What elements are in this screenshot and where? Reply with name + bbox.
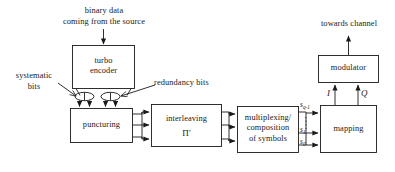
arrow-interleaving-to-multiplexing-2 <box>222 125 236 127</box>
turbo-encoder-block-diagram: turbo encoder puncturing interleaving Π'… <box>0 0 395 172</box>
annotation-systematic-bits: systematic bits <box>6 71 62 92</box>
multiplexing-line1: multiplexing/ <box>237 113 299 123</box>
block-label-turbo-encoder: turbo encoder <box>72 56 135 77</box>
s-bot-subscript: 0 <box>303 141 306 147</box>
turbo-encoder-line2: encoder <box>72 66 135 76</box>
turbo-encoder-line1: turbo <box>72 56 135 66</box>
modulator-line1: modulator <box>318 63 379 73</box>
signal-label-q-branch: Q <box>361 88 368 98</box>
interleaving-line1: interleaving <box>151 114 222 124</box>
s-mid-subscript: 1 <box>303 129 306 135</box>
arrow-puncturing-to-interleaving-3 <box>133 137 150 139</box>
signal-label-i-branch: I <box>327 88 330 98</box>
lead-encoder-right <box>127 89 131 96</box>
mapping-line1: mapping <box>320 124 377 134</box>
source-input-line1: binary data <box>38 6 170 17</box>
block-label-mapping: mapping <box>320 124 377 134</box>
block-label-modulator: modulator <box>318 63 379 73</box>
block-label-interleaving: interleaving Π' <box>151 114 222 139</box>
systematic-bits-line1: systematic <box>6 71 62 82</box>
annotation-source-input: binary data coming from the source <box>38 6 170 27</box>
multiplexing-line3: of symbols <box>237 134 299 144</box>
annotation-towards-channel: towards channel <box>305 19 393 30</box>
annotation-redundancy-bits: redundancy bits <box>154 78 222 89</box>
multiplexing-line2: composition <box>237 123 299 133</box>
systematic-bits-line2: bits <box>6 82 62 93</box>
arrow-interleaving-to-multiplexing-3 <box>222 139 236 141</box>
arrow-interleaving-to-multiplexing-1 <box>222 112 236 114</box>
source-input-line2: coming from the source <box>38 17 170 28</box>
signal-label-s-1: s1 <box>300 126 305 137</box>
signal-label-s-q-minus-1: sq-1 <box>300 101 310 112</box>
leader-redundancy-bits <box>121 85 155 96</box>
s-top-subscript: q-1 <box>303 104 310 110</box>
puncturing-line1: puncturing <box>70 120 133 130</box>
interleaving-line2: Π' <box>151 128 222 138</box>
block-label-puncturing: puncturing <box>70 120 133 130</box>
redundancy-bits-line1: redundancy bits <box>154 78 222 89</box>
arrow-puncturing-to-interleaving-1 <box>133 112 150 114</box>
block-label-multiplexing: multiplexing/ composition of symbols <box>237 113 299 144</box>
signal-label-s-0: s0 <box>300 138 305 149</box>
towards-channel-line1: towards channel <box>305 19 393 30</box>
